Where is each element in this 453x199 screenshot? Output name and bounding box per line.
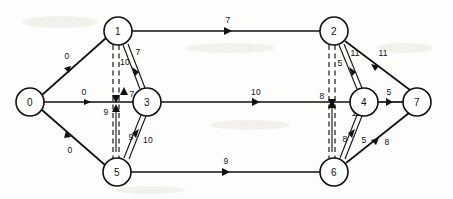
node-3-label: 3 — [144, 97, 150, 108]
node-0[interactable]: 0 — [16, 88, 44, 116]
edge-label-0-5: 0 — [68, 145, 73, 155]
node-7-label: 7 — [414, 97, 420, 108]
edge-label-6-2-up: 8 — [343, 134, 348, 144]
edge-label-0-3: 0 — [82, 87, 87, 97]
edge-label-0-1: 0 — [65, 51, 70, 61]
edge-label-6-4: 5 — [362, 135, 367, 145]
edge-label-5-6: 9 — [224, 156, 229, 166]
edge-5-to-3-inner: 9 — [129, 132, 134, 142]
edge-1-to-2: 7 — [132, 15, 320, 35]
node-2-label: 2 — [331, 26, 337, 37]
node-1[interactable]: 1 — [104, 17, 132, 45]
edge-label-2-4-down: 8 — [320, 91, 325, 101]
edge-label-5-3-inner: 9 — [129, 132, 134, 142]
edge-5-to-1-up: 9 — [104, 104, 120, 152]
edge-label-5-1: 9 — [104, 107, 109, 117]
node-4-label: 4 — [361, 97, 367, 108]
edge-5-to-6: 9 — [131, 156, 320, 176]
edge-label-4-7: 5 — [387, 87, 392, 97]
edge-label-3-4: 10 — [251, 87, 261, 97]
edge-label-2-7: 11 — [378, 48, 387, 58]
edge-6-to-7: 8 — [346, 113, 409, 163]
edge-3-to-1-up: 7 — [120, 87, 135, 99]
edge-label-1-3: 7 — [136, 47, 141, 57]
node-4[interactable]: 4 — [350, 88, 378, 116]
node-7[interactable]: 7 — [403, 88, 431, 116]
node-5-label: 5 — [114, 167, 120, 178]
edge-label-1-2: 7 — [226, 15, 231, 25]
edge-label-2-6-dashed: 5 — [338, 58, 343, 68]
node-2[interactable]: 2 — [320, 17, 348, 45]
node-1-label: 1 — [115, 26, 121, 37]
network-flow-diagram: 0 0 0 7 10 9 — [0, 0, 453, 199]
node-6-label: 6 — [331, 167, 337, 178]
node-0-label: 0 — [27, 97, 33, 108]
node-6[interactable]: 6 — [320, 158, 348, 186]
edge-label-5-3-double: 10 — [143, 135, 153, 145]
node-3[interactable]: 3 — [133, 88, 161, 116]
edge-4-to-7: 5 — [378, 87, 403, 106]
edge-0-to-1: 0 — [42, 38, 106, 95]
node-5[interactable]: 5 — [103, 158, 131, 186]
edge-0-to-3: 0 — [44, 87, 133, 105]
edge-label-6-7: 8 — [385, 137, 390, 147]
graph-canvas: 0 0 0 7 10 9 — [0, 0, 453, 199]
edge-0-to-5: 0 — [42, 110, 105, 165]
